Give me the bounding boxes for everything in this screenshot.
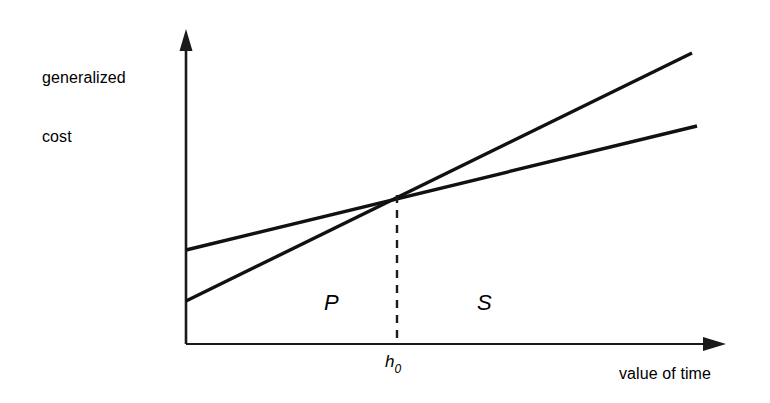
y-axis-arrow-up-icon [180,29,193,51]
threshold-label: h0 [385,352,401,375]
cost-line-s [186,126,697,250]
y-axis-label-line-2: cost [42,127,126,147]
threshold-subscript: 0 [394,362,401,376]
y-axis-label-line-1: generalized [42,68,126,88]
x-axis-label: value of time [619,364,711,384]
y-axis-label: generalized cost [42,29,126,185]
region-label-s: S [477,290,492,317]
generalized-cost-vs-value-of-time-chart: generalized cost value of time P S h0 [0,0,770,403]
x-axis-arrow-right-icon [703,337,726,351]
cost-line-p [186,53,692,301]
region-label-p: P [324,290,339,317]
